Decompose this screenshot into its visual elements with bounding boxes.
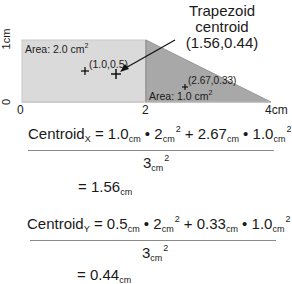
rectangle-area-label: Area: 2.0 cm2	[25, 42, 88, 55]
centroid-x-result: = 1.56cm	[78, 178, 132, 197]
centroid-x-numerator: CentroidX = 1.0cm • 2cm2 + 2.67cm • 1.0c…	[28, 124, 291, 144]
rectangle-centroid-label: (1.0,0.5)	[89, 58, 128, 70]
triangle-centroid-label: (2.67,0.33)	[188, 75, 236, 86]
fraction-bar-x	[28, 150, 274, 151]
centroid-x-denominator: 3cm2	[143, 153, 169, 173]
trapezoid-centroid-callout: Trapezoid centroid (1.56,0.44)	[182, 3, 262, 51]
centroid-y-result: = 0.44cm	[77, 266, 131, 284]
y-axis-label-top: 1cm	[2, 27, 16, 51]
triangle-area-label: Area: 1.0 cm2	[149, 89, 212, 102]
fraction-bar-y	[30, 240, 276, 241]
centroid-y-numerator: CentroidY = 0.5cm • 2cm2 + 0.33cm • 1.0c…	[27, 214, 290, 234]
x-tick-2: 2	[142, 103, 149, 117]
x-tick-4cm: 4cm	[265, 103, 288, 117]
centroid-y-denominator: 3cm2	[142, 243, 168, 263]
x-tick-0: 0	[17, 103, 24, 117]
y-axis-label-bottom: 0	[0, 99, 12, 105]
